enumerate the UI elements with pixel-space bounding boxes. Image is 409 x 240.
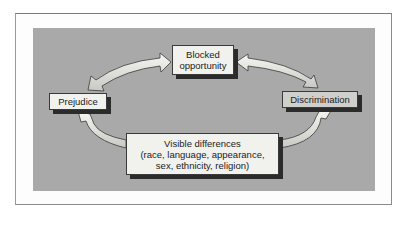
node-blocked-opportunity: Blocked opportunity	[172, 45, 234, 75]
node-discrimination: Discrimination	[282, 91, 358, 108]
arrow-blocked-discrimination	[236, 54, 318, 88]
node-label-line: sex, ethnicity, religion)	[127, 160, 278, 171]
node-visible-differences: Visible differences (race, language, app…	[126, 133, 279, 175]
arrow-prejudice-blocked	[88, 53, 171, 91]
node-label-line: Visible differences	[127, 138, 278, 149]
node-prejudice: Prejudice	[49, 93, 107, 110]
node-label-line: (race, language, appearance,	[127, 149, 278, 160]
arrow-visible-prejudice	[78, 111, 126, 148]
arrow-visible-discrimination	[280, 109, 332, 148]
node-label-line: Blocked	[173, 49, 233, 60]
node-label: Discrimination	[283, 94, 357, 105]
node-label-line: opportunity	[173, 60, 233, 71]
node-label: Prejudice	[50, 96, 106, 107]
